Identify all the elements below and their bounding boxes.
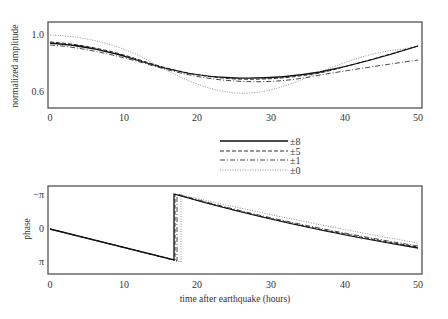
amplitude-y-label: normalized amplitude bbox=[10, 24, 20, 107]
figure: normalized amplitude 1.0 0.6 0 10 20 30 … bbox=[0, 0, 448, 319]
phase-line-pm1 bbox=[50, 194, 418, 261]
legend-label-pm0: ±0 bbox=[290, 165, 301, 176]
x-tick-50: 50 bbox=[413, 112, 423, 123]
phase-chart: phase −π 0 π 0 10 20 30 40 50 time after… bbox=[22, 186, 423, 305]
amplitude-line-pm8 bbox=[50, 43, 418, 78]
y-tick-0-6: 0.6 bbox=[32, 86, 45, 97]
y-tick-minus-pi: −π bbox=[33, 189, 44, 200]
amplitude-plot-frame bbox=[48, 22, 422, 108]
x-tick-40: 40 bbox=[340, 112, 350, 123]
x-tick-0: 0 bbox=[48, 112, 53, 123]
x-tick-50: 50 bbox=[413, 279, 423, 290]
x-tick-10: 10 bbox=[119, 112, 129, 123]
x-tick-40: 40 bbox=[340, 279, 350, 290]
x-tick-30: 30 bbox=[266, 279, 276, 290]
phase-line-pm0 bbox=[50, 195, 418, 262]
x-tick-0: 0 bbox=[48, 279, 53, 290]
x-tick-20: 20 bbox=[192, 279, 202, 290]
phase-plot-frame bbox=[48, 186, 422, 274]
amplitude-line-pm5 bbox=[50, 42, 418, 79]
y-tick-pi: π bbox=[39, 256, 44, 267]
x-tick-20: 20 bbox=[192, 112, 202, 123]
phase-line-pm5 bbox=[50, 194, 418, 260]
phase-line-pm8 bbox=[50, 194, 418, 260]
amplitude-line-pm0 bbox=[50, 35, 418, 93]
phase-y-label: phase bbox=[22, 218, 32, 240]
y-tick-zero: 0 bbox=[39, 223, 44, 234]
x-tick-30: 30 bbox=[266, 112, 276, 123]
x-tick-10: 10 bbox=[119, 279, 129, 290]
legend: ±8 ±5 ±1 ±0 bbox=[220, 136, 301, 176]
amplitude-chart: normalized amplitude 1.0 0.6 0 10 20 30 … bbox=[10, 22, 423, 123]
y-tick-1-0: 1.0 bbox=[32, 29, 45, 40]
phase-x-label: time after earthquake (hours) bbox=[180, 294, 291, 305]
